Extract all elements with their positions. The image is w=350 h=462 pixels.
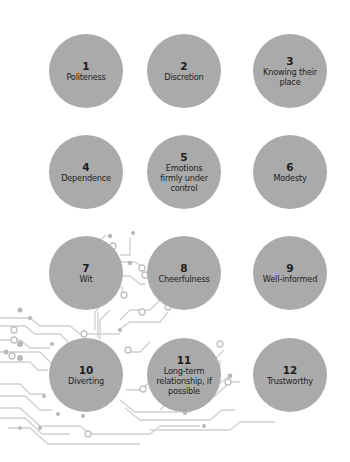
trait-bubble-12: 12 Trustworthy [253, 338, 327, 412]
trait-number: 5 [180, 152, 187, 163]
trait-number: 1 [82, 61, 89, 72]
trait-bubble-9: 9 Well-informed [253, 236, 327, 310]
trait-number: 3 [286, 56, 293, 67]
trait-number: 6 [286, 162, 293, 173]
trait-label: Wit [76, 274, 97, 284]
trait-bubble-3: 3 Knowing their place [253, 34, 327, 108]
trait-bubble-1: 1 Politeness [49, 34, 123, 108]
trait-bubble-11: 11 Long-term relationship, if possible [147, 338, 221, 412]
trait-number: 2 [180, 61, 187, 72]
trait-number: 9 [286, 263, 293, 274]
trait-bubble-8: 8 Cheerfulness [147, 236, 221, 310]
trait-number: 11 [177, 355, 192, 366]
trait-label: Politeness [62, 72, 109, 82]
trait-bubble-4: 4 Dependence [49, 135, 123, 209]
trait-number: 4 [82, 162, 89, 173]
trait-bubble-7: 7 Wit [49, 236, 123, 310]
trait-bubble-10: 10 Diverting [49, 338, 123, 412]
trait-label: Modesty [269, 173, 310, 183]
trait-label: Diverting [64, 376, 108, 386]
trait-number: 8 [180, 263, 187, 274]
trait-number: 7 [82, 263, 89, 274]
trait-label: Discretion [160, 72, 207, 82]
trait-label: Cheerfulness [154, 274, 213, 284]
trait-number: 12 [283, 365, 298, 376]
trait-label: Knowing their place [253, 67, 327, 87]
trait-label: Well-informed [259, 274, 321, 284]
trait-label: Emotions firmly under control [147, 163, 221, 193]
trait-label: Long-term relationship, if possible [147, 366, 221, 396]
trait-number: 10 [79, 365, 94, 376]
trait-label: Dependence [57, 173, 115, 183]
trait-label: Trustworthy [263, 376, 317, 386]
trait-bubble-6: 6 Modesty [253, 135, 327, 209]
trait-bubble-5: 5 Emotions firmly under control [147, 135, 221, 209]
trait-bubble-2: 2 Discretion [147, 34, 221, 108]
